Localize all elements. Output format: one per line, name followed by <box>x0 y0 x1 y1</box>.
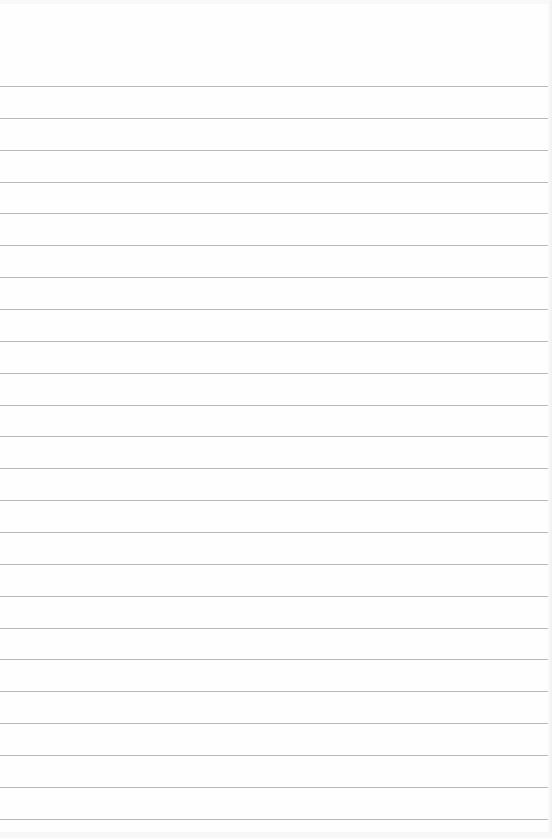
paper-bottom-edge <box>0 832 552 838</box>
ruled-line <box>0 723 552 724</box>
ruled-line <box>0 405 552 406</box>
ruled-line <box>0 182 552 183</box>
lined-paper-sheet <box>0 0 552 838</box>
ruled-line <box>0 659 552 660</box>
ruled-line <box>0 500 552 501</box>
ruled-line <box>0 213 552 214</box>
ruled-line <box>0 596 552 597</box>
ruled-line <box>0 245 552 246</box>
ruled-line <box>0 532 552 533</box>
ruled-line <box>0 341 552 342</box>
ruled-line <box>0 564 552 565</box>
ruled-line <box>0 628 552 629</box>
ruled-line <box>0 277 552 278</box>
ruled-line <box>0 86 552 87</box>
ruled-line <box>0 787 552 788</box>
ruled-line <box>0 755 552 756</box>
ruled-line <box>0 150 552 151</box>
ruled-line <box>0 819 552 820</box>
ruled-line <box>0 118 552 119</box>
ruled-line <box>0 468 552 469</box>
ruled-line <box>0 691 552 692</box>
ruled-line <box>0 436 552 437</box>
paper-top-edge <box>0 0 552 4</box>
ruled-line <box>0 309 552 310</box>
paper-right-edge <box>548 0 552 838</box>
ruled-line <box>0 373 552 374</box>
